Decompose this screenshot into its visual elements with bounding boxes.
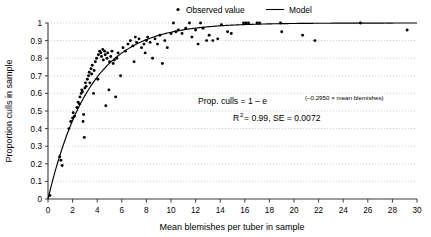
data-point bbox=[190, 36, 193, 39]
data-point bbox=[216, 37, 219, 40]
data-point bbox=[97, 53, 100, 56]
data-point bbox=[279, 22, 282, 25]
data-point bbox=[156, 43, 159, 46]
data-point bbox=[85, 85, 88, 88]
data-point bbox=[163, 39, 166, 42]
data-point bbox=[129, 39, 132, 42]
y-tick-label: 0.5 bbox=[31, 107, 43, 116]
data-point bbox=[91, 64, 94, 67]
data-point bbox=[108, 60, 111, 63]
x-tick-label: 4 bbox=[95, 206, 100, 215]
data-point bbox=[133, 60, 136, 63]
data-point bbox=[104, 53, 107, 56]
y-tick-label: 0.7 bbox=[31, 72, 43, 81]
data-point bbox=[188, 22, 191, 25]
data-point bbox=[131, 44, 134, 47]
y-axis-title: Proportion culls in sample bbox=[4, 59, 14, 162]
data-point bbox=[107, 88, 110, 91]
data-point bbox=[208, 34, 211, 37]
legend-marker-observed-value-icon bbox=[176, 8, 179, 11]
data-point bbox=[69, 120, 72, 123]
fit-stats-r-base: R bbox=[233, 113, 239, 123]
data-point bbox=[114, 95, 117, 98]
data-point bbox=[94, 60, 97, 63]
data-point bbox=[90, 73, 93, 76]
data-point bbox=[90, 67, 93, 70]
blemishes-vs-culls-scatter-chart: Observed value Model 00.10.20.30.40.50.6… bbox=[0, 0, 431, 237]
y-tick-label: 0.3 bbox=[31, 142, 43, 151]
data-point bbox=[115, 57, 118, 60]
data-point bbox=[181, 32, 184, 35]
data-point bbox=[172, 22, 175, 25]
data-point bbox=[166, 46, 169, 49]
data-point bbox=[103, 50, 106, 53]
data-point bbox=[88, 81, 91, 84]
x-tick-label: 16 bbox=[240, 206, 250, 215]
annotation-fit-stats: R 2 = 0.99, SE = 0.0072 bbox=[233, 111, 321, 123]
data-point bbox=[122, 46, 125, 49]
x-tick-label: 0 bbox=[46, 206, 51, 215]
x-tick-label: 22 bbox=[314, 206, 324, 215]
x-axis-title: Mean blemishes per tuber in sample bbox=[159, 222, 304, 232]
data-point bbox=[87, 74, 90, 77]
y-tick-label: 0.1 bbox=[31, 177, 43, 186]
data-point bbox=[79, 95, 82, 98]
legend-label-observed-value: Observed value bbox=[186, 5, 245, 15]
data-point bbox=[117, 51, 120, 54]
data-point bbox=[61, 164, 64, 167]
data-point bbox=[230, 32, 233, 35]
x-tick-label: 30 bbox=[412, 206, 422, 215]
data-point bbox=[174, 30, 177, 33]
chart-background bbox=[0, 0, 431, 237]
data-point bbox=[184, 27, 187, 30]
y-tick-label: 0.4 bbox=[31, 125, 43, 134]
data-point bbox=[92, 92, 95, 95]
y-tick-label: 0 bbox=[37, 195, 42, 204]
x-tick-label: 18 bbox=[265, 206, 275, 215]
data-point bbox=[313, 39, 316, 42]
legend-label-model: Model bbox=[289, 5, 312, 15]
data-point bbox=[59, 159, 62, 162]
data-point bbox=[170, 32, 173, 35]
data-point bbox=[154, 37, 157, 40]
data-point bbox=[48, 194, 51, 197]
data-point bbox=[127, 43, 130, 46]
data-point bbox=[149, 41, 152, 44]
fit-stats-rest: = 0.99, SE = 0.0072 bbox=[244, 113, 321, 123]
x-tick-label: 8 bbox=[144, 206, 149, 215]
data-point bbox=[106, 51, 109, 54]
data-point bbox=[82, 120, 85, 123]
x-tick-label: 24 bbox=[339, 206, 349, 215]
data-point bbox=[146, 36, 149, 39]
data-point bbox=[81, 90, 84, 93]
data-point bbox=[140, 46, 143, 49]
data-point bbox=[78, 103, 81, 106]
y-tick-label: 0.8 bbox=[31, 54, 43, 63]
data-point bbox=[100, 55, 103, 58]
x-tick-label: 14 bbox=[216, 206, 226, 215]
data-point bbox=[158, 34, 161, 37]
data-point bbox=[93, 69, 96, 72]
data-point bbox=[124, 50, 127, 53]
data-point bbox=[247, 22, 250, 25]
data-point bbox=[177, 29, 180, 32]
x-tick-label: 26 bbox=[363, 206, 373, 215]
data-point bbox=[138, 37, 141, 40]
data-point bbox=[197, 43, 200, 46]
data-point bbox=[280, 30, 283, 33]
data-point bbox=[111, 50, 114, 53]
data-point bbox=[142, 43, 145, 46]
x-tick-label: 12 bbox=[191, 206, 201, 215]
data-point bbox=[134, 36, 137, 39]
y-tick-label: 0.2 bbox=[31, 160, 43, 169]
x-tick-label: 28 bbox=[388, 206, 398, 215]
chart-figure: Observed value Model 00.10.20.30.40.50.6… bbox=[0, 0, 431, 237]
x-tick-label: 20 bbox=[289, 206, 299, 215]
data-point bbox=[102, 59, 105, 62]
data-point bbox=[99, 51, 102, 54]
data-point bbox=[106, 57, 109, 60]
data-point bbox=[194, 29, 197, 32]
data-point bbox=[96, 78, 99, 81]
y-tick-label: 1 bbox=[37, 19, 42, 28]
data-point bbox=[226, 30, 229, 33]
